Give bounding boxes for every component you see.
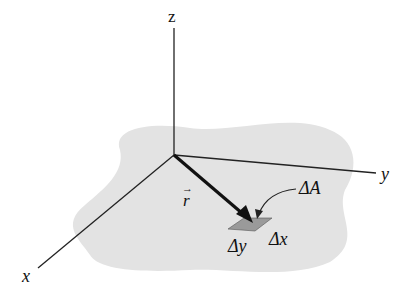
- z-axis-label: z: [168, 7, 176, 26]
- x-axis-label: x: [21, 266, 30, 286]
- delta-y-label: Δy: [227, 236, 247, 256]
- vector-r-arrow-accent: →: [182, 182, 193, 194]
- y-axis-label: y: [379, 164, 389, 184]
- area-element-diagram: z y x r → ΔA Δx Δy: [0, 0, 420, 291]
- delta-x-label: Δx: [268, 229, 288, 249]
- delta-a-label: ΔA: [298, 178, 322, 198]
